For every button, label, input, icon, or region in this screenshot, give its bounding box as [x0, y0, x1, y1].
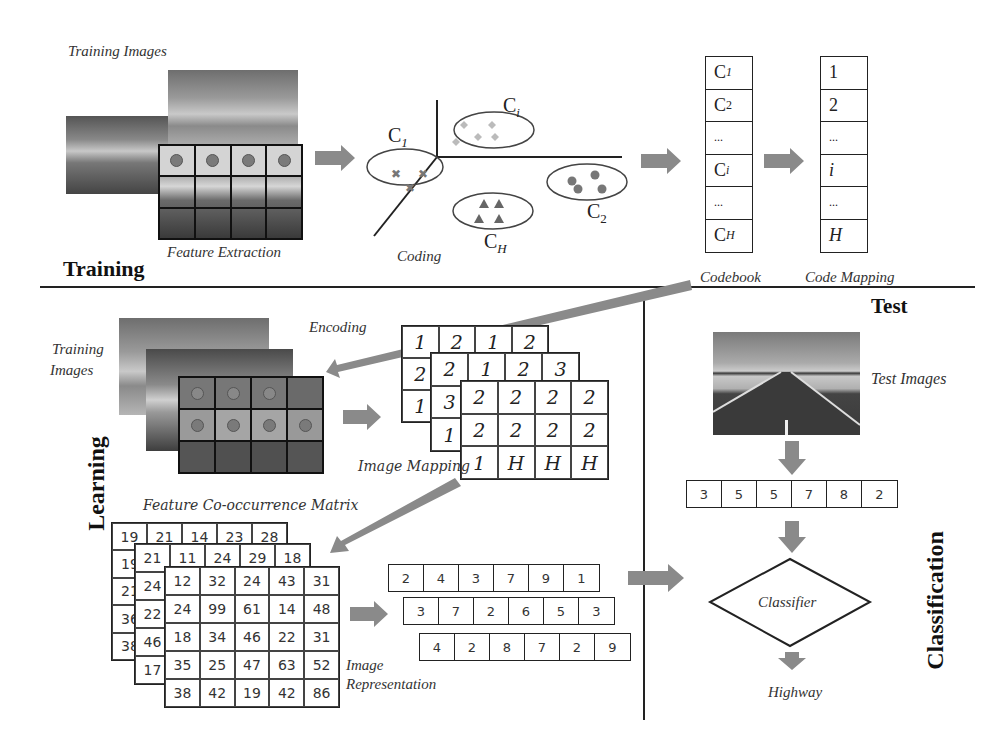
- representation-vector-2: 3 7 2 6 5 3: [403, 597, 615, 625]
- grid-cell: [287, 441, 323, 473]
- image-mapping-front: 2 2 2 2 2 2 2 2 1 H H H: [460, 380, 609, 480]
- feature-point-icon: [191, 419, 204, 432]
- arrow-right-icon: [628, 564, 688, 592]
- arrow-down-icon: [778, 652, 806, 672]
- grid-cell: [215, 377, 251, 409]
- learning-training-images-label-line2: Images: [50, 362, 93, 379]
- cooccurrence-matrix-front: 12 32 24 43 31 24 99 61 14 48 18 34 46 2…: [164, 566, 340, 708]
- encoding-label: Encoding: [309, 319, 367, 336]
- grid-cell: [251, 377, 287, 409]
- representation-vector-3: 4 2 8 7 2 9: [419, 633, 631, 661]
- grid-cell: [179, 409, 215, 441]
- feature-point-icon: [191, 387, 204, 400]
- grid-cell: [251, 441, 287, 473]
- feature-point-icon: [263, 419, 276, 432]
- grid-cell: [215, 409, 251, 441]
- grid-cell: [179, 441, 215, 473]
- feature-point-icon: [227, 387, 240, 400]
- learning-feature-grid: [178, 376, 324, 474]
- image-representation-label-line1: Image: [346, 657, 384, 674]
- test-images-label: Test Images: [871, 370, 946, 388]
- grid-cell: [215, 441, 251, 473]
- test-image: [713, 332, 860, 435]
- grid-cell: [287, 409, 323, 441]
- representation-vector-1: 2 4 3 7 9 1: [388, 564, 600, 592]
- feature-point-icon: [263, 387, 276, 400]
- classification-result-label: Highway: [768, 684, 822, 701]
- feature-point-icon: [299, 419, 312, 432]
- arrow-right-icon: [350, 601, 392, 627]
- grid-cell: [179, 377, 215, 409]
- image-mapping-label: Image Mapping: [358, 458, 470, 474]
- grid-cell: [287, 377, 323, 409]
- feature-point-icon: [227, 419, 240, 432]
- arrow-down-icon: [778, 521, 806, 555]
- grid-cell: [251, 409, 287, 441]
- learning-section-label: Learning: [83, 434, 110, 534]
- learning-training-images-label-line1: Training: [52, 341, 104, 358]
- test-feature-vector: 3 5 5 7 8 2: [686, 480, 898, 508]
- arrow-down-icon: [778, 441, 806, 477]
- classifier-label: Classifier: [758, 594, 816, 611]
- arrow-right-icon: [343, 404, 385, 430]
- road-shape-icon: [713, 332, 860, 435]
- classification-section-label: Classification: [922, 526, 949, 676]
- feature-cooccurrence-label: Feature Co-occurrence Matrix: [143, 497, 358, 513]
- test-section-label: Test: [871, 294, 908, 319]
- image-representation-label-line2: Representation: [346, 676, 436, 693]
